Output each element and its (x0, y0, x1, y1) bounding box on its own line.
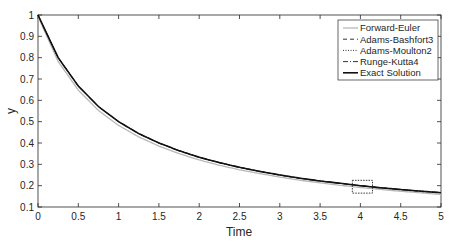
x-tick-label: 2.5 (233, 211, 247, 222)
x-tick-label: 5 (438, 211, 444, 222)
x-tick-label: 0.5 (71, 211, 85, 222)
y-tick-label: 1 (28, 10, 34, 21)
line-chart: 00.511.522.533.544.550.10.20.30.40.50.60… (0, 0, 458, 243)
legend-label: Exact Solution (360, 67, 421, 78)
y-tick-label: 0.3 (20, 159, 34, 170)
y-tick-label: 0.2 (20, 180, 34, 191)
y-tick-label: 0.8 (20, 52, 34, 63)
x-tick-label: 4.5 (394, 211, 408, 222)
x-axis-label: Time (226, 225, 253, 239)
y-tick-label: 0.1 (20, 202, 34, 213)
legend-label: Runge-Kutta4 (360, 56, 419, 67)
x-tick-label: 0 (35, 211, 41, 222)
x-tick-label: 3.5 (313, 211, 327, 222)
legend-label: Forward-Euler (360, 22, 420, 33)
x-tick-label: 2 (196, 211, 202, 222)
x-tick-label: 1 (116, 211, 122, 222)
y-tick-label: 0.5 (20, 116, 34, 127)
y-tick-label: 0.9 (20, 31, 34, 42)
y-tick-label: 0.6 (20, 95, 34, 106)
legend: Forward-EulerAdams-Bashfort3Adams-Moulto… (338, 20, 438, 80)
x-tick-label: 3 (277, 211, 283, 222)
legend-label: Adams-Bashfort3 (360, 34, 433, 45)
y-tick-label: 0.7 (20, 74, 34, 85)
x-tick-label: 1.5 (152, 211, 166, 222)
y-tick-label: 0.4 (20, 138, 34, 149)
x-tick-label: 4 (358, 211, 364, 222)
legend-label: Adams-Moulton2 (360, 45, 432, 56)
y-axis-label: y (4, 108, 18, 114)
